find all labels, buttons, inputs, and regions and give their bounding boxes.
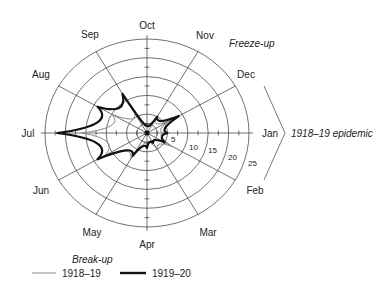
month-label-apr: Apr <box>139 239 155 250</box>
month-label-mar: Mar <box>199 227 217 238</box>
month-label-jul: Jul <box>22 128 35 139</box>
polar-grid <box>41 35 253 231</box>
legend-label-1919: 1919–20 <box>152 268 191 279</box>
grid-spoke <box>147 86 235 133</box>
month-label-jun: Jun <box>33 185 49 196</box>
month-label-dec: Dec <box>237 69 255 80</box>
ring-label-15: 15 <box>208 146 217 155</box>
freeze-up-label: Freeze-up <box>229 38 275 49</box>
ring-label-20: 20 <box>228 153 237 162</box>
ring-label-25: 25 <box>248 159 257 168</box>
month-label-jan: Jan <box>262 128 278 139</box>
month-label-sep: Sep <box>81 29 99 40</box>
polar-chart: Oct Nov Dec Jan Feb Mar Apr May Jun Jul … <box>0 0 385 292</box>
data-series <box>57 94 179 159</box>
epidemic-label: 1918–19 epidemic <box>291 128 373 139</box>
grid-spoke <box>96 52 147 133</box>
month-label-oct: Oct <box>139 20 155 31</box>
month-label-nov: Nov <box>196 30 214 41</box>
month-label-aug: Aug <box>32 69 50 80</box>
ring-label-10: 10 <box>189 143 198 152</box>
month-label-may: May <box>83 227 102 238</box>
series-line-1919-20 <box>57 94 179 159</box>
legend-label-1918: 1918–19 <box>62 268 101 279</box>
break-up-label: Break-up <box>72 254 113 265</box>
month-label-feb: Feb <box>246 185 264 196</box>
grid-spoke <box>96 133 147 214</box>
ring-label-5: 5 <box>171 135 176 144</box>
